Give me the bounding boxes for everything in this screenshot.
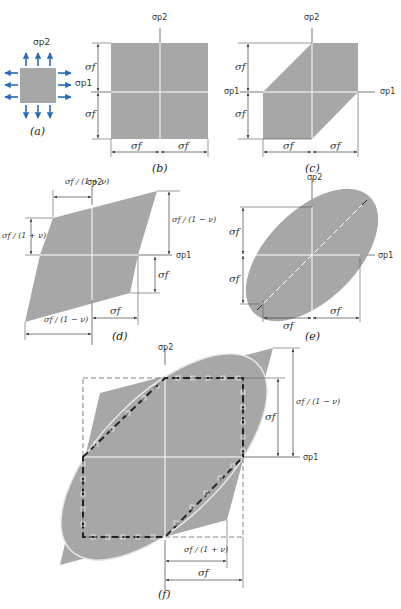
dim-right-inner: σf (265, 411, 278, 422)
dim-h-right: σf (330, 305, 343, 316)
dim-h-left: σf (283, 140, 296, 151)
panel-d: σp2 σp1 σf / (1 + ν) σf / (1 + ν) σf / (… (2, 177, 216, 345)
caption-f: (f) (158, 588, 171, 601)
axis-label-sp2: σp2 (158, 343, 173, 352)
dim-left: σf / (1 + ν) (2, 231, 46, 240)
caption-e: (e) (305, 330, 320, 343)
panel-a: σp2 σp1 (a) (5, 37, 92, 138)
axis-label-sp1: σp1 (176, 251, 191, 260)
panel-b: σp2 σf σf σf σf (b) (85, 13, 215, 175)
panel-c: σp2 σp1 σp1 σf σf σf σf (c) (224, 13, 395, 175)
dim-v-bottom: σf (229, 273, 242, 284)
dim-right-lower: σf (158, 269, 171, 280)
dim-v-top: σf (235, 61, 248, 72)
dim-v-top: σf (229, 226, 242, 237)
axis-label-sp1: σp1 (378, 251, 393, 260)
dim-h-right: σf (178, 140, 191, 151)
dim-h-right: σf (330, 140, 343, 151)
dim-bottom-outer: σf (198, 567, 211, 578)
dim-h-left: σf (283, 320, 296, 331)
dim-bottom-left: σf / (1 − ν) (44, 315, 88, 324)
dim-right: σf / (1 − ν) (172, 215, 216, 224)
caption-b: (b) (152, 162, 168, 175)
dim-right-outer: σf / (1 − ν) (296, 397, 340, 406)
stress-element (20, 68, 56, 103)
panel-e: σp2 σp1 σf σf σf σf (e) (222, 165, 401, 345)
failure-criteria-diagram: σp2 σp1 (a) σp2 σf σf σf σf (b) σp2 (0, 0, 401, 609)
axis-label-sp1-left: σp1 (224, 87, 239, 96)
axis-label-sp2: σp2 (33, 37, 50, 47)
failure-region-hexagon (263, 43, 358, 139)
dim-v-bottom: σf (85, 108, 98, 119)
dim-h-left: σf (131, 140, 144, 151)
dim-bottom-right: σf (110, 305, 123, 316)
panel-f: σp2 σp1 σf σf / (1 − ν) σf / (1 + ν) σf … (27, 320, 340, 601)
axis-label-sp1: σp1 (75, 78, 92, 88)
failure-region-parallelogram (25, 191, 157, 322)
axis-label-sp2: σp2 (307, 173, 322, 182)
axis-label-sp1: σp1 (380, 87, 395, 96)
axis-label-sp2: σp2 (304, 13, 319, 22)
axis-label-sp2: σp2 (152, 13, 167, 22)
caption-d: (d) (112, 330, 128, 343)
dim-v-bottom: σf (235, 108, 248, 119)
dim-top: σf / (1 + ν) (65, 177, 109, 186)
dim-bottom-inner: σf / (1 + ν) (184, 545, 228, 554)
axis-label-sp1: σp1 (303, 453, 318, 462)
caption-a: (a) (30, 125, 45, 138)
dim-v-top: σf (85, 61, 98, 72)
